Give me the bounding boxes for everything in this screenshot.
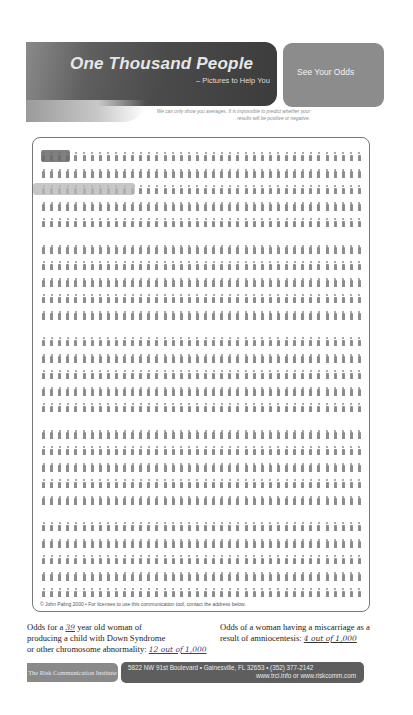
person-icon <box>245 261 248 270</box>
person-icon <box>261 245 264 254</box>
person-icon <box>334 463 337 472</box>
person-icon <box>83 522 86 531</box>
person-icon <box>236 387 239 396</box>
person-icon <box>131 354 134 363</box>
person-icon <box>139 261 142 270</box>
person-icon <box>334 446 337 455</box>
person-icon <box>326 479 329 488</box>
person-icon <box>74 463 77 472</box>
person-icon <box>196 294 199 303</box>
person-icon <box>293 555 296 564</box>
miscarriage-line1: Odds of a woman having a miscarriage as … <box>220 622 370 632</box>
person-icon <box>74 354 77 363</box>
person-icon <box>245 588 248 597</box>
person-icon <box>66 218 69 227</box>
person-icon <box>334 496 337 505</box>
person-icon <box>139 311 142 320</box>
person-icon <box>342 278 345 287</box>
person-icon <box>228 588 231 597</box>
person-icon <box>261 555 264 564</box>
person-icon <box>91 245 94 254</box>
person-icon <box>245 387 248 396</box>
person-icon <box>107 202 110 211</box>
person-icon <box>212 522 215 531</box>
person-icon <box>204 152 207 161</box>
person-icon <box>204 463 207 472</box>
person-icon <box>91 555 94 564</box>
person-icon <box>147 430 150 439</box>
person-icon <box>342 446 345 455</box>
person-icon <box>204 261 207 270</box>
person-icon <box>172 311 175 320</box>
person-icon <box>293 496 296 505</box>
person-icon <box>293 354 296 363</box>
person-icon <box>131 294 134 303</box>
person-icon <box>212 152 215 161</box>
person-icon <box>83 311 86 320</box>
person-icon <box>139 446 142 455</box>
person-icon <box>236 588 239 597</box>
person-icon <box>253 496 256 505</box>
person-icon <box>334 588 337 597</box>
address-box: 5822 NW 91st Boulevard • Gainesville, FL… <box>121 662 364 683</box>
person-icon <box>212 354 215 363</box>
person-icon <box>236 496 239 505</box>
person-icon <box>358 354 361 363</box>
person-icon <box>91 354 94 363</box>
person-icon <box>42 169 45 178</box>
person-icon <box>180 479 183 488</box>
person-icon <box>253 278 256 287</box>
person-icon <box>66 354 69 363</box>
person-icon <box>277 202 280 211</box>
person-icon <box>245 152 248 161</box>
person-icon <box>155 294 158 303</box>
person-icon <box>342 572 345 581</box>
person-icon <box>228 185 231 194</box>
person-icon <box>123 387 126 396</box>
person-icon <box>83 261 86 270</box>
person-icon <box>253 311 256 320</box>
person-icon <box>155 185 158 194</box>
person-icon <box>309 278 312 287</box>
person-icon <box>188 522 191 531</box>
person-icon <box>139 354 142 363</box>
person-icon <box>350 572 353 581</box>
person-icon <box>317 261 320 270</box>
person-icon <box>139 539 142 548</box>
highlight-down-syndrome-or-chromosome-abnormality <box>33 183 135 195</box>
person-icon <box>220 185 223 194</box>
person-icon <box>220 337 223 346</box>
person-icon <box>50 294 53 303</box>
person-icon <box>317 479 320 488</box>
person-icon <box>107 522 110 531</box>
miscarriage-odds: Odds of a woman having a miscarriage as … <box>220 622 400 644</box>
person-icon <box>261 387 264 396</box>
person-icon <box>204 169 207 178</box>
person-icon <box>236 169 239 178</box>
person-icon <box>58 337 61 346</box>
person-icon <box>261 430 264 439</box>
person-icon <box>236 152 239 161</box>
person-icon <box>66 202 69 211</box>
person-icon <box>204 430 207 439</box>
person-icon <box>358 202 361 211</box>
person-icon <box>285 294 288 303</box>
person-icon <box>155 245 158 254</box>
person-icon <box>147 294 150 303</box>
person-icon <box>261 522 264 531</box>
person-icon <box>228 311 231 320</box>
person-icon <box>196 218 199 227</box>
person-icon <box>212 588 215 597</box>
person-icon <box>91 522 94 531</box>
person-icon <box>172 218 175 227</box>
person-icon <box>350 169 353 178</box>
person-icon <box>228 572 231 581</box>
person-icon <box>253 370 256 379</box>
person-icon <box>326 278 329 287</box>
person-icon <box>317 169 320 178</box>
person-icon <box>358 261 361 270</box>
person-icon <box>326 496 329 505</box>
person-icon <box>155 539 158 548</box>
person-icon <box>342 169 345 178</box>
person-icon <box>50 539 53 548</box>
